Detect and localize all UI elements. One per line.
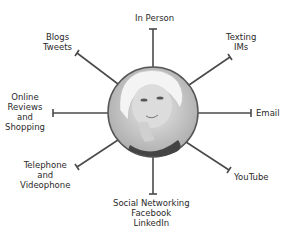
label-email: Email [256,108,280,118]
label-telephone: Telephone and Videophone [20,160,70,190]
label-texting: Texting IMs [226,32,256,52]
label-online-reviews: Online Reviews and Shopping [5,92,45,132]
spoke-youtube [186,142,229,170]
label-social-networking: Social Networking Facebook LinkedIn [113,198,190,228]
spoke-blogs [77,53,118,84]
spoke-texting [189,57,230,85]
center-portrait [108,67,198,157]
spoke-telephone [77,140,118,167]
label-in-person: In Person [135,13,174,23]
label-blogs: Blogs Tweets [43,32,72,52]
label-youtube: YouTube [234,172,269,182]
